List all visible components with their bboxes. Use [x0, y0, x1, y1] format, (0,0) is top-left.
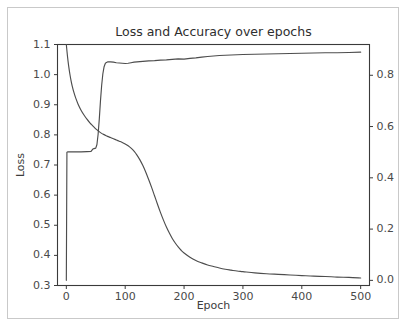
y-tick-label: 0.9: [33, 98, 51, 111]
x-tick-label: 300: [232, 290, 253, 303]
y-tick-label: 0.6: [33, 188, 51, 201]
y-tick-label: 0.4: [33, 248, 51, 261]
x-tick-label: 200: [174, 290, 195, 303]
y-tick-label: 0.7: [33, 158, 51, 171]
y-tick-label: 0.3: [33, 279, 51, 292]
x-tick-label: 400: [291, 290, 312, 303]
y2-tick-label: 0.2: [377, 222, 395, 235]
x-tick-label: 500: [350, 290, 371, 303]
x-tick-label: 0: [63, 290, 70, 303]
chart-plot: 0.30.40.50.60.70.80.91.01.10.00.20.40.60…: [0, 0, 406, 326]
y-tick-label: 0.5: [33, 218, 51, 231]
series-line-loss: [66, 45, 360, 278]
y2-tick-label: 0.4: [377, 171, 395, 184]
plot-frame: [58, 45, 370, 286]
y-tick-label: 1.0: [33, 68, 51, 81]
series-line-accuracy: [66, 52, 360, 280]
y-tick-label: 0.8: [33, 128, 51, 141]
x-axis-label: Epoch: [197, 299, 231, 312]
y-tick-label: 1.1: [33, 38, 51, 51]
y-axis-label: Loss: [14, 153, 27, 177]
x-tick-label: 100: [115, 290, 136, 303]
y2-tick-label: 0.0: [377, 273, 395, 286]
chart-title: Loss and Accuracy over epochs: [115, 24, 311, 39]
y2-tick-label: 0.6: [377, 120, 395, 133]
figure-canvas: 0.30.40.50.60.70.80.91.01.10.00.20.40.60…: [0, 0, 406, 326]
y2-tick-label: 0.8: [377, 68, 395, 81]
